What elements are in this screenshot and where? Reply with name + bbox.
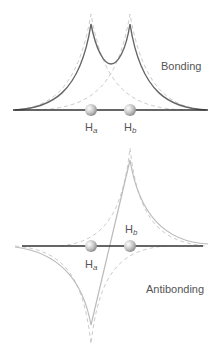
antibonding-title: Antibonding xyxy=(146,283,204,295)
atom-hb-bonding xyxy=(124,104,136,116)
atom-label-hb-bonding: Hb xyxy=(124,121,137,135)
orbital-diagram: Ha Hb Bonding Hb Ha Antibonding xyxy=(0,0,219,363)
bonding-title: Bonding xyxy=(161,60,201,72)
atom-hb-antibonding xyxy=(124,240,136,252)
antibonding-panel: Hb Ha Antibonding xyxy=(15,148,208,344)
atom-label-ha-antibonding: Ha xyxy=(85,258,98,272)
atom-ha-bonding xyxy=(85,104,97,116)
antibonding-wavefunction-curve xyxy=(15,160,208,325)
bonding-panel: Ha Hb Bonding xyxy=(13,14,208,135)
atomic-orbital-a-dashed xyxy=(13,14,185,110)
atom-ha-antibonding xyxy=(85,240,97,252)
atom-label-ha-bonding: Ha xyxy=(85,121,98,135)
atom-label-hb-antibonding: Hb xyxy=(125,223,138,237)
